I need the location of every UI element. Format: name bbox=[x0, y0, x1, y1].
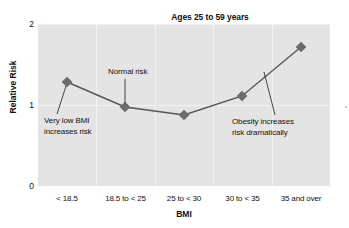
data-point-marker-0 bbox=[62, 77, 73, 88]
annotation-very-low-bmi-line1: Very low BMI bbox=[44, 116, 92, 127]
annotation-obesity-line1: Obesity increases bbox=[232, 117, 294, 128]
series-overlay bbox=[0, 0, 349, 228]
annotation-obesity: Obesity increases risk dramatically bbox=[232, 117, 294, 138]
annotation-very-low-bmi-line2: increases risk bbox=[44, 127, 92, 138]
annotation-normal-risk-line1: Normal risk bbox=[108, 67, 147, 78]
leader-line-obesity bbox=[264, 72, 275, 115]
annotation-normal-risk: Normal risk bbox=[108, 67, 147, 78]
annotation-obesity-line2: risk dramatically bbox=[232, 128, 294, 139]
data-point-marker-1 bbox=[120, 102, 131, 113]
relative-risk-bmi-chart: Ages 25 to 59 years Relative Risk 2 1 0 … bbox=[0, 0, 349, 228]
data-point-marker-2 bbox=[179, 110, 190, 121]
annotation-very-low-bmi: Very low BMI increases risk bbox=[44, 116, 92, 137]
leader-line-very-low-bmi bbox=[57, 86, 66, 114]
